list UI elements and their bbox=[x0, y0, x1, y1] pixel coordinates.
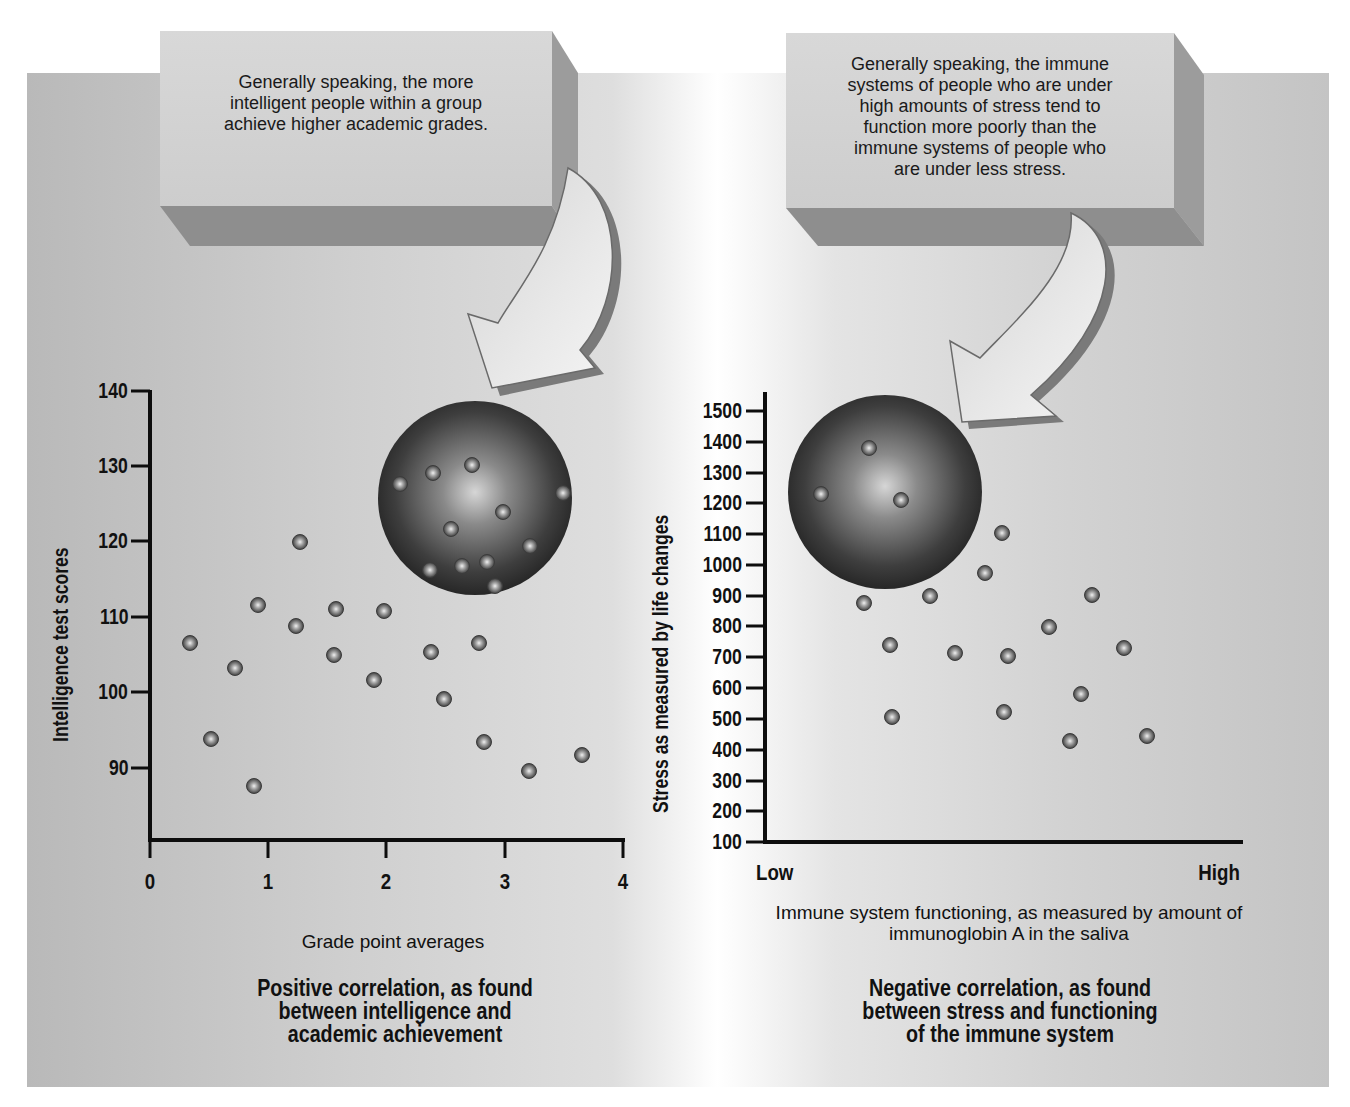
y-tick-200: 200 bbox=[713, 798, 742, 824]
right-chart-caption: Negative correlation, as found between s… bbox=[854, 976, 1166, 1045]
y-tick-700: 700 bbox=[713, 644, 742, 670]
x-tick-3: 3 bbox=[500, 869, 510, 895]
y-tick-600: 600 bbox=[713, 675, 742, 701]
y-tick-1100: 1100 bbox=[704, 521, 742, 547]
y-tick-1400: 1400 bbox=[703, 429, 742, 455]
y-tick-110: 110 bbox=[100, 604, 128, 630]
x-endpoint-high: High bbox=[1198, 860, 1240, 886]
right-x-axis-label: Immune system functioning, as measured b… bbox=[762, 902, 1256, 944]
y-tick-120: 120 bbox=[99, 528, 128, 554]
x-endpoint-low: Low bbox=[756, 860, 793, 886]
curved-arrow-left-icon bbox=[468, 168, 621, 396]
left-scatter-plot bbox=[131, 390, 625, 858]
y-tick-500: 500 bbox=[713, 706, 742, 732]
left-x-axis-label: Grade point averages bbox=[243, 931, 543, 952]
left-y-axis-label: Intelligence test scores bbox=[48, 547, 74, 742]
y-tick-1500: 1500 bbox=[703, 398, 742, 424]
x-tick-4: 4 bbox=[618, 869, 628, 895]
right-y-axis-label: Stress as measured by life changes bbox=[648, 515, 674, 813]
x-tick-2: 2 bbox=[381, 869, 391, 895]
y-tick-300: 300 bbox=[713, 768, 742, 794]
right-scatter-plot bbox=[746, 392, 1243, 844]
curved-arrow-right-icon bbox=[950, 213, 1115, 429]
x-tick-0: 0 bbox=[145, 869, 155, 895]
y-tick-400: 400 bbox=[713, 737, 742, 763]
y-tick-1200: 1200 bbox=[703, 490, 742, 516]
y-tick-90: 90 bbox=[108, 755, 128, 781]
magnified-cluster-sphere-left bbox=[378, 401, 572, 595]
y-tick-1000: 1000 bbox=[703, 552, 742, 578]
y-tick-100: 100 bbox=[99, 679, 128, 705]
y-tick-100: 100 bbox=[713, 829, 742, 855]
y-tick-1300: 1300 bbox=[703, 460, 742, 486]
y-tick-900: 900 bbox=[713, 583, 742, 609]
y-tick-130: 130 bbox=[99, 453, 128, 479]
x-tick-1: 1 bbox=[263, 869, 273, 895]
y-tick-800: 800 bbox=[713, 613, 742, 639]
left-chart-caption: Positive correlation, as found between i… bbox=[239, 976, 551, 1045]
y-tick-140: 140 bbox=[99, 378, 128, 404]
